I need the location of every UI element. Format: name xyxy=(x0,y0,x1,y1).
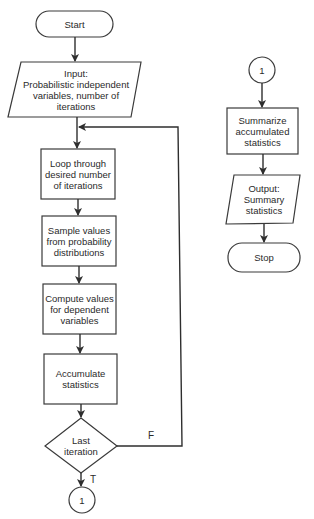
input-label: Input: Probabilistic independent variabl… xyxy=(14,62,138,117)
branch-false-label: F xyxy=(148,430,154,441)
compute-label: Compute values for dependent variables xyxy=(45,284,114,334)
accumulate-label: Accumulate statistics xyxy=(50,354,111,404)
output-label: Output: Summary statistics xyxy=(238,175,290,224)
connector-out-label: 1 xyxy=(69,487,95,513)
input-line-3: variables, number of xyxy=(33,90,119,101)
summarize-label: Summarize accumulated statistics xyxy=(231,108,294,154)
start-label: Start xyxy=(36,11,113,37)
input-line-2: Probabilistic independent xyxy=(23,79,129,90)
input-line-4: iterations xyxy=(57,101,96,112)
connector-in-label: 1 xyxy=(249,57,275,83)
input-line-1: Input: xyxy=(64,68,88,79)
sample-label: Sample values from probability distribut… xyxy=(43,216,115,266)
stop-label: Stop xyxy=(228,243,300,272)
loop-label: Loop through desired number of iteration… xyxy=(43,149,113,199)
decision-label: Last iteration xyxy=(58,432,104,460)
branch-true-label: T xyxy=(90,474,96,485)
